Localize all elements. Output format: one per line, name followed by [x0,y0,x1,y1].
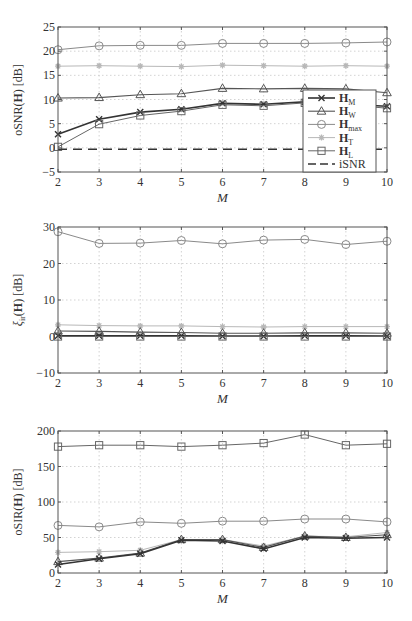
x-tick-label: 4 [137,576,143,590]
y-axis-label: oSIR(H) [dB] [11,468,25,535]
legend-label: iSNR [339,157,366,171]
y-tick-label: 20 [43,44,55,58]
y-tick-label: 20 [43,257,55,271]
x-axis-label: M [216,591,229,606]
y-tick-label: 10 [43,93,55,107]
osnr-chart: 2345678910−50510152025MoSNR(H) [dB]HMHWH… [11,20,393,205]
x-tick-label: 9 [343,376,349,390]
y-tick-label: 25 [43,20,55,34]
x-tick-label: 2 [55,576,61,590]
x-axis-label: M [216,190,229,205]
x-tick-label: 7 [261,175,267,189]
x-tick-label: 5 [178,576,184,590]
y-tick-label: 0 [49,566,55,580]
x-axis-label: M [216,391,229,406]
x-tick-label: 10 [381,175,393,189]
x-tick-label: 3 [96,376,102,390]
x-tick-label: 10 [381,376,393,390]
star-marker [302,63,308,69]
x-tick-label: 9 [343,576,349,590]
y-axis-label: oSNR(H) [dB] [11,64,25,136]
tick-labels: 2345678910050100150200 [37,424,393,590]
x-tick-label: 6 [220,376,226,390]
y-tick-label: 5 [49,117,55,131]
x-tick-label: 6 [220,576,226,590]
star-marker [261,63,267,69]
tick-labels: 2345678910−100102030 [36,220,393,390]
chart-canvas: 2345678910−50510152025MoSNR(H) [dB]HMHWH… [0,0,412,621]
x-tick-label: 10 [381,576,393,590]
y-tick-label: 10 [43,293,55,307]
series-line-h-max [58,42,387,50]
y-axis-label: ξir(H) [dB] [11,274,27,326]
star-marker [343,63,349,69]
y-tick-label: 30 [43,220,55,234]
legend: HMHWHmaxHTHLiSNR [303,90,376,172]
x-tick-label: 8 [302,376,308,390]
y-tick-label: 200 [37,424,55,438]
x-tick-label: 2 [55,175,61,189]
y-tick-label: 0 [49,330,55,344]
y-tick-label: 100 [37,495,55,509]
x-tick-label: 3 [96,576,102,590]
x-tick-label: 2 [55,376,61,390]
y-tick-label: 150 [37,460,55,474]
star-marker [96,63,102,69]
series-line-h-max [58,232,387,245]
x-tick-label: 4 [137,376,143,390]
y-tick-label: 15 [43,68,55,82]
grid-lines [58,227,387,373]
star-marker [178,64,184,70]
x-tick-label: 7 [261,376,267,390]
x-tick-label: 6 [220,175,226,189]
xi-ir-chart: 2345678910−100102030Mξir(H) [dB] [11,220,393,406]
y-tick-label: 50 [43,531,55,545]
osir-chart: 2345678910050100150200MoSIR(H) [dB] [11,424,393,606]
y-tick-label: −10 [36,366,55,380]
star-marker [319,135,325,141]
x-tick-label: 9 [343,175,349,189]
x-tick-label: 3 [96,175,102,189]
x-tick-label: 8 [302,175,308,189]
star-marker [137,63,143,69]
x-tick-label: 5 [178,376,184,390]
x-tick-label: 5 [178,175,184,189]
x-tick-label: 7 [261,576,267,590]
figure: 2345678910−50510152025MoSNR(H) [dB]HMHWH… [0,0,412,621]
star-marker [220,62,226,68]
x-tick-label: 4 [137,175,143,189]
y-tick-label: −5 [42,165,55,179]
y-tick-label: 0 [49,141,55,155]
x-tick-label: 8 [302,576,308,590]
